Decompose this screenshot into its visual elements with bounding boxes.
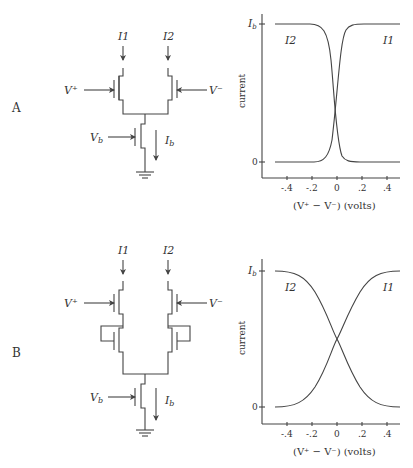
circuit-b: I1 I2 V⁺ V⁻ — [64, 244, 223, 436]
curve-label-i2: I2 — [284, 281, 296, 294]
common-node — [123, 360, 168, 374]
curve-label-i1: I1 — [382, 281, 394, 294]
i2-label: I2 — [162, 244, 174, 257]
svg-text:-.4: -.4 — [281, 429, 293, 439]
i2-label: I2 — [162, 30, 174, 43]
circuit-a: I1 I2 V⁺ V⁻ — [64, 30, 223, 178]
svg-text:-.2: -.2 — [306, 429, 318, 439]
panel-a: A I1 I2 V⁺ V⁻ — [11, 14, 400, 211]
svg-text:.2: .2 — [358, 429, 367, 439]
curve-label-i1: I1 — [382, 34, 394, 47]
y-tick-0: 0 — [252, 157, 258, 167]
transistor-left-icon — [84, 281, 123, 320]
panel-b: B I1 I2 V⁺ — [12, 244, 400, 457]
diode-transistor-right-icon — [168, 320, 190, 360]
svg-text:.4: .4 — [383, 429, 392, 439]
tail-transistor-icon — [108, 114, 145, 172]
transistor-right-icon — [168, 281, 207, 320]
panel-label-b: B — [12, 346, 21, 360]
panel-label-a: A — [11, 101, 21, 115]
common-node — [123, 108, 168, 114]
svg-text:-.4: -.4 — [281, 183, 293, 193]
i1-label: I1 — [117, 244, 129, 257]
x-axis-label: (V⁺ − V⁻) (volts) — [293, 446, 376, 457]
transistor-left-icon — [84, 68, 123, 108]
plot-a: Ib 0 current -.4 -.2 0 .2 .4 (V⁺ − V⁻) (… — [237, 14, 400, 211]
y-tick-ib: Ib — [247, 17, 257, 31]
y-tick-ib: Ib — [247, 264, 257, 278]
ground-icon — [136, 430, 154, 436]
ib-label: Ib — [164, 394, 174, 408]
plot-b: Ib 0 current -.4 -.2 0 .2 .4 (V⁺ − V⁻) (… — [237, 259, 400, 457]
i1-label: I1 — [117, 30, 129, 43]
v-minus-label: V⁻ — [209, 84, 223, 97]
svg-text:0: 0 — [334, 183, 340, 193]
x-axis-label: (V⁺ − V⁻) (volts) — [293, 200, 376, 211]
vb-label: Vb — [90, 131, 103, 145]
y-axis-label: current — [237, 320, 247, 355]
svg-text:0: 0 — [334, 429, 340, 439]
tail-transistor-icon — [108, 374, 145, 430]
curve-label-i2: I2 — [284, 34, 296, 47]
transistor-right-icon — [168, 68, 207, 108]
svg-text:.2: .2 — [358, 183, 367, 193]
svg-text:.4: .4 — [383, 183, 392, 193]
y-axis-label: current — [237, 73, 247, 108]
ib-label: Ib — [164, 134, 174, 148]
ground-icon — [136, 172, 154, 178]
v-plus-label: V⁺ — [64, 84, 78, 97]
diode-transistor-left-icon — [101, 320, 123, 360]
vb-label: Vb — [90, 391, 103, 405]
v-plus-label: V⁺ — [64, 297, 78, 310]
y-tick-0: 0 — [252, 402, 258, 412]
figure: A I1 I2 V⁺ V⁻ — [0, 0, 413, 468]
svg-text:-.2: -.2 — [306, 183, 318, 193]
v-minus-label: V⁻ — [209, 297, 223, 310]
